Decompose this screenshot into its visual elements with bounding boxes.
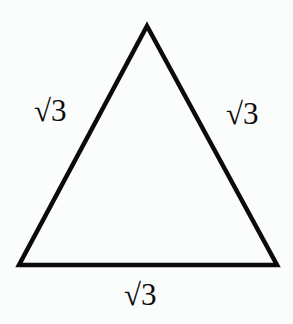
side-label-left: √3 (34, 95, 67, 126)
triangle-shape (0, 0, 293, 324)
side-label-right: √3 (226, 98, 259, 129)
triangle-outline (19, 26, 277, 265)
figure-canvas: √3 √3 √3 (0, 0, 293, 324)
side-label-bottom: √3 (124, 279, 157, 310)
